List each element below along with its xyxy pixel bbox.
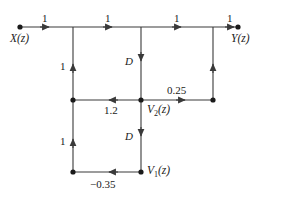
node-dot-b1	[70, 169, 75, 174]
node-label-y: Y(z)	[231, 33, 250, 45]
flow-graph-canvas	[0, 0, 286, 199]
node-label-v1: V1(z)	[147, 165, 170, 179]
node-label-v2-var: V	[147, 103, 154, 115]
node-label-v1-arg: (z)	[158, 164, 170, 176]
gain-label-m1-to-t1: 1	[60, 61, 66, 72]
node-dot-x	[17, 24, 22, 29]
gain-label-t1-to-t2: 1	[105, 13, 111, 24]
gain-label-delay-upper: D	[125, 56, 133, 67]
node-dot-y	[235, 24, 240, 29]
node-label-v2: V2(z)	[147, 104, 170, 118]
node-dot-v2	[138, 97, 143, 102]
node-label-v1-var: V	[147, 164, 154, 176]
signal-flow-graph-figure: X(z) Y(z) V2(z) V1(z) 1 1 1 1 1 1 D D 1.…	[0, 0, 286, 199]
gain-label-v2-to-m1: 1.2	[104, 105, 118, 116]
node-label-x: X(z)	[10, 33, 29, 45]
gain-label-t2-to-t3: 1	[174, 13, 180, 24]
gain-label-v1-to-b1: −0.35	[90, 179, 115, 190]
node-label-v2-arg: (z)	[158, 103, 170, 115]
gain-label-x-to-t1: 1	[42, 13, 48, 24]
node-dot-m1	[70, 97, 75, 102]
gain-label-b1-to-m1: 1	[60, 136, 66, 147]
gain-label-delay-lower: D	[125, 131, 133, 142]
node-dot-v1	[138, 169, 143, 174]
gain-label-v2-to-m3: 0.25	[167, 85, 186, 96]
node-dot-m3	[210, 97, 215, 102]
gain-label-t3-to-y: 1	[227, 13, 233, 24]
